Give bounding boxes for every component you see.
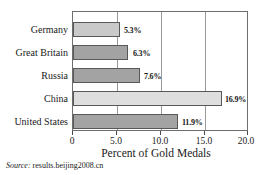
tick-label-0: 0 <box>70 136 75 146</box>
tick-label-10: 10.0 <box>152 136 169 146</box>
category-label-germany: Germany <box>31 24 68 35</box>
category-label-russia: Russia <box>41 70 68 81</box>
bar-value-great-britain: 6.3% <box>133 48 150 57</box>
bar-great-britain[interactable] <box>73 45 128 60</box>
gold-medals-bar-chart: 5.3% 6.3% 7.6% 16.9% 11.9% Germany Great… <box>0 0 266 175</box>
bar-germany[interactable] <box>73 22 120 37</box>
category-label-great-britain: Great Britain <box>16 47 68 58</box>
tick-mark-15 <box>204 131 205 135</box>
tick-mark-5 <box>116 131 117 135</box>
bar-china[interactable] <box>73 91 222 106</box>
bar-value-china: 16.9% <box>225 94 246 103</box>
tick-label-5: 5.0 <box>110 136 122 146</box>
bar-russia[interactable] <box>73 68 140 83</box>
tick-label-20: 20.0 <box>238 136 255 146</box>
source-text: results.beijing2008.cn <box>33 161 104 170</box>
category-label-united-states: United States <box>14 116 68 127</box>
gridline-15 <box>205 12 206 130</box>
bar-value-russia: 7.6% <box>144 71 161 80</box>
tick-label-15: 15.0 <box>196 136 213 146</box>
x-axis-title: Percent of Gold Medals <box>0 147 266 159</box>
tick-mark-20 <box>247 131 248 135</box>
plot-area: 5.3% 6.3% 7.6% 16.9% 11.9% <box>72 11 248 131</box>
tick-mark-0 <box>72 131 73 135</box>
category-label-china: China <box>44 93 68 104</box>
bar-value-germany: 5.3% <box>124 25 141 34</box>
bar-united-states[interactable] <box>73 114 178 129</box>
tick-mark-10 <box>160 131 161 135</box>
source-note: Source: results.beijing2008.cn <box>6 161 103 170</box>
bar-value-united-states: 11.9% <box>182 117 203 126</box>
source-label: Source: <box>6 161 31 170</box>
